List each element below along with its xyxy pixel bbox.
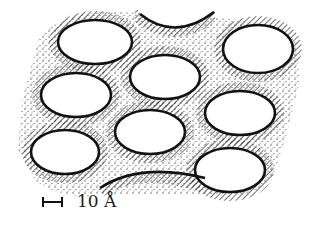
scale-bar-label: 10 Å: [77, 191, 116, 211]
pore: [195, 148, 265, 192]
porous-lattice-diagram: [0, 0, 309, 225]
pore: [115, 110, 185, 154]
pore: [205, 91, 275, 135]
pore: [58, 20, 132, 64]
pore: [223, 25, 293, 73]
pore: [31, 130, 99, 174]
scale-bar: [43, 197, 62, 207]
pore: [130, 55, 200, 99]
pore: [41, 73, 111, 117]
